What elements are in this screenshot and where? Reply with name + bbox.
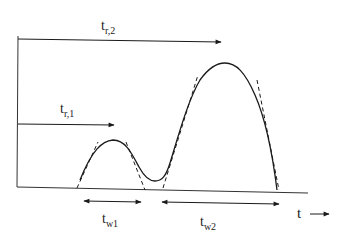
y-axis: [17, 36, 18, 187]
tw2-label: tw2: [200, 214, 216, 232]
tangent-peak1-left: [77, 142, 98, 188]
time-axis-label: t: [297, 205, 302, 221]
tr2-arrow: [18, 39, 221, 42]
tw1-arrow: [84, 201, 141, 202]
x-axis: [17, 187, 308, 193]
tangent-peak1-right: [126, 142, 145, 190]
tangent-peak2-left: [163, 75, 198, 188]
tr1-arrow: [18, 124, 114, 125]
tr2-label: tr,2: [101, 18, 115, 36]
tr1-label: tr,1: [60, 101, 74, 119]
tw2-arrow: [162, 202, 279, 204]
chromatogram-diagram: tr,2 tr,1 tw1 tw2 t: [0, 0, 346, 237]
tangent-peak2-right: [257, 80, 279, 190]
signal-curve: [80, 63, 277, 190]
tw1-label: tw1: [102, 211, 118, 229]
